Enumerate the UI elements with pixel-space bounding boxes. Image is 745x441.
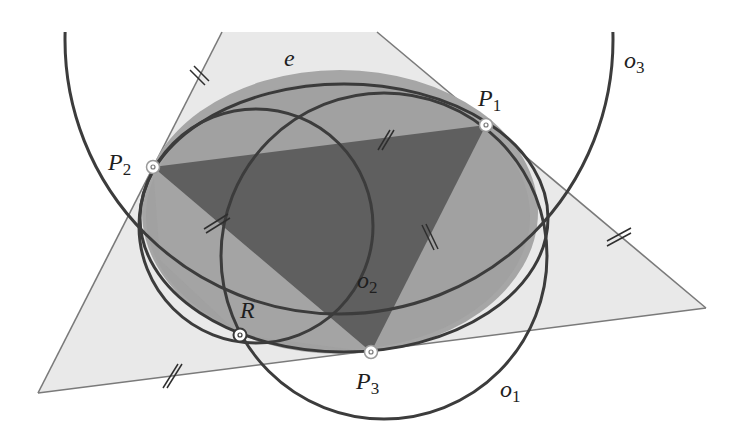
label-R: R <box>239 297 255 323</box>
label-o3: o3 <box>624 47 645 77</box>
point-P1 <box>480 119 493 132</box>
label-P2: P2 <box>107 149 131 179</box>
point-R <box>234 329 247 342</box>
point-P3 <box>365 346 378 359</box>
label-o1: o1 <box>500 376 521 406</box>
label-P3: P3 <box>355 368 379 398</box>
label-e: e <box>284 45 295 71</box>
point-P2 <box>147 161 160 174</box>
geometry-diagram: e P1 P2 P3 R o1 o2 o3 <box>0 0 745 441</box>
label-P1: P1 <box>477 85 501 115</box>
